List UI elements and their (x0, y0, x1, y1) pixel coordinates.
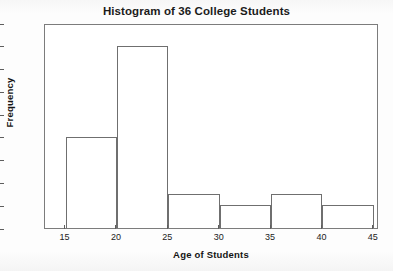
x-axis-tick-mark (270, 225, 271, 229)
y-axis-tick-mark (0, 69, 4, 70)
x-axis-tick-mark (64, 225, 65, 229)
histogram-bar (220, 205, 271, 228)
histogram-bars (45, 25, 377, 228)
y-axis-tick-mark (0, 115, 4, 116)
x-axis-tick-label: 30 (207, 232, 231, 242)
x-axis-tick-label: 45 (361, 232, 385, 242)
x-axis-tick-label: 20 (104, 232, 128, 242)
plot-area (44, 24, 378, 229)
x-axis-title: Age of Students (44, 249, 378, 260)
y-axis-tick-mark (0, 183, 4, 184)
y-axis-tick-mark (0, 137, 4, 138)
x-axis-tick-group: 15202530354045 (0, 229, 393, 251)
histogram-figure: Histogram of 36 College Students Frequen… (0, 0, 393, 271)
x-axis-tick-mark (321, 225, 322, 229)
histogram-bar (66, 137, 117, 228)
x-axis-tick-label: 35 (258, 232, 282, 242)
x-axis-tick-mark (218, 225, 219, 229)
x-axis-tick-mark (372, 225, 373, 229)
x-axis-tick-label: 15 (53, 232, 77, 242)
histogram-bar (271, 194, 322, 228)
x-axis-tick-mark (167, 225, 168, 229)
y-axis-tick-mark (0, 92, 4, 93)
y-axis-tick-mark (0, 160, 4, 161)
histogram-bar (322, 205, 373, 228)
y-axis-tick-mark (0, 46, 4, 47)
x-axis-tick-label: 40 (309, 232, 333, 242)
chart-title: Histogram of 36 College Students (0, 5, 393, 17)
x-axis-tick-mark (115, 225, 116, 229)
y-axis-tick-mark (0, 206, 4, 207)
x-axis-tick-label: 25 (155, 232, 179, 242)
histogram-bar (117, 46, 168, 228)
y-axis-tick-mark (0, 24, 4, 25)
histogram-bar (168, 194, 219, 228)
